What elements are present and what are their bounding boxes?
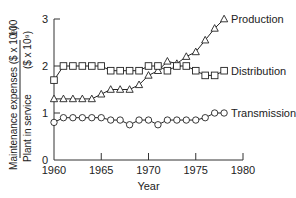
y-label-multiplier: 100 (8, 19, 19, 36)
square-marker (79, 63, 86, 70)
triangle-marker (164, 58, 171, 65)
circle-marker (117, 117, 123, 123)
y-label-plant: Plant in service (22, 94, 33, 162)
circle-marker (98, 115, 104, 121)
x-tick-label: 1980 (231, 164, 255, 176)
triangle-marker (88, 95, 95, 102)
triangle-marker (221, 15, 228, 22)
series-label-distribution: Distribution (231, 65, 286, 77)
triangle-marker (98, 90, 105, 97)
circle-marker (174, 117, 180, 123)
circle-marker (108, 117, 114, 123)
circle-marker (164, 117, 170, 123)
circle-marker (70, 115, 76, 121)
series-transmission: Transmission (51, 107, 296, 128)
series-label-transmission: Transmission (231, 107, 296, 119)
y-tick-label: 2 (42, 60, 48, 72)
square-marker (89, 63, 96, 70)
circle-marker (60, 115, 66, 121)
triangle-marker (79, 95, 86, 102)
circle-marker (145, 117, 151, 123)
triangle-marker (60, 95, 67, 102)
x-tick-label: 1975 (184, 164, 208, 176)
triangle-marker (183, 53, 190, 60)
series-production: Production (50, 13, 283, 102)
triangle-marker (50, 95, 57, 102)
circle-marker (193, 117, 199, 123)
circle-marker (183, 117, 189, 123)
square-marker (107, 67, 114, 74)
circle-marker (126, 122, 132, 128)
circle-marker (89, 115, 95, 121)
square-marker (221, 67, 228, 74)
square-marker (183, 63, 190, 70)
series-label-production: Production (231, 13, 284, 25)
triangle-marker (69, 95, 76, 102)
square-marker (211, 72, 218, 79)
x-tick-label: 1960 (42, 164, 66, 176)
square-marker (202, 72, 209, 79)
circle-marker (136, 117, 142, 123)
circle-marker (79, 115, 85, 121)
square-marker (126, 67, 133, 74)
y-tick-label: 1 (42, 107, 48, 119)
circle-marker (155, 122, 161, 128)
square-marker (192, 67, 199, 74)
square-marker (117, 67, 124, 74)
series-distribution: Distribution (51, 63, 286, 84)
circle-marker (51, 119, 57, 125)
circle-marker (211, 110, 217, 116)
square-marker (136, 67, 143, 74)
y-tick-label: 3 (42, 13, 48, 25)
x-axis-label: Year (137, 180, 160, 192)
square-marker (164, 67, 171, 74)
square-marker (70, 63, 77, 70)
square-marker (98, 63, 105, 70)
circle-marker (221, 110, 227, 116)
x-tick-label: 1965 (89, 164, 113, 176)
square-marker (60, 63, 67, 70)
square-marker (155, 63, 162, 70)
square-marker (145, 63, 152, 70)
circle-marker (202, 115, 208, 121)
series-group: ProductionDistributionTransmission (50, 13, 296, 128)
x-tick-label: 1970 (136, 164, 160, 176)
y-axis-label: Maintenance expenses ($ x 10⁹)Plant in s… (8, 19, 33, 170)
square-marker (51, 77, 58, 84)
triangle-marker (145, 72, 152, 79)
axes: 012319601965197019751980 (42, 13, 255, 176)
square-marker (174, 63, 181, 70)
line-chart: 012319601965197019751980 ProductionDistr… (0, 0, 296, 198)
y-label-numerator: Maintenance expenses ($ x 10⁹) (8, 26, 19, 170)
y-label-denominator-units: ($ x 10⁹) (22, 31, 33, 69)
